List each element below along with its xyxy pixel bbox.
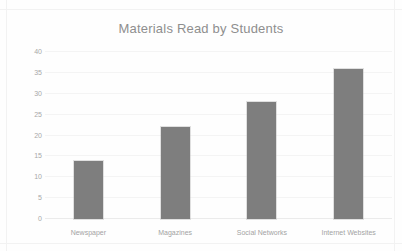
y-axis-tick-label: 15 <box>16 152 42 160</box>
y-axis-tick-label: 0 <box>16 215 42 223</box>
plot-area <box>45 46 392 225</box>
x-axis-category-label: Internet Websites <box>289 228 402 237</box>
y-axis-tick-label: 30 <box>16 90 42 98</box>
scan-edge-top <box>0 9 402 10</box>
bar <box>161 127 190 219</box>
bar <box>74 161 103 219</box>
scan-edge-left <box>6 0 7 251</box>
bar-chart: Materials Read by Students 0510152025303… <box>0 0 402 251</box>
scan-edge-right <box>394 0 395 251</box>
bar <box>247 102 276 219</box>
y-axis-tick-label: 5 <box>16 194 42 202</box>
y-axis-tick-label: 40 <box>16 48 42 56</box>
bar <box>334 69 363 219</box>
y-axis: 0510152025303540 <box>12 46 42 225</box>
y-axis-tick-label: 25 <box>16 111 42 119</box>
chart-title: Materials Read by Students <box>0 21 402 36</box>
y-axis-tick-label: 10 <box>16 173 42 181</box>
y-axis-tick-label: 35 <box>16 69 42 77</box>
y-axis-tick-label: 20 <box>16 132 42 140</box>
scan-edge-bottom <box>0 243 402 244</box>
gridline <box>45 51 392 52</box>
